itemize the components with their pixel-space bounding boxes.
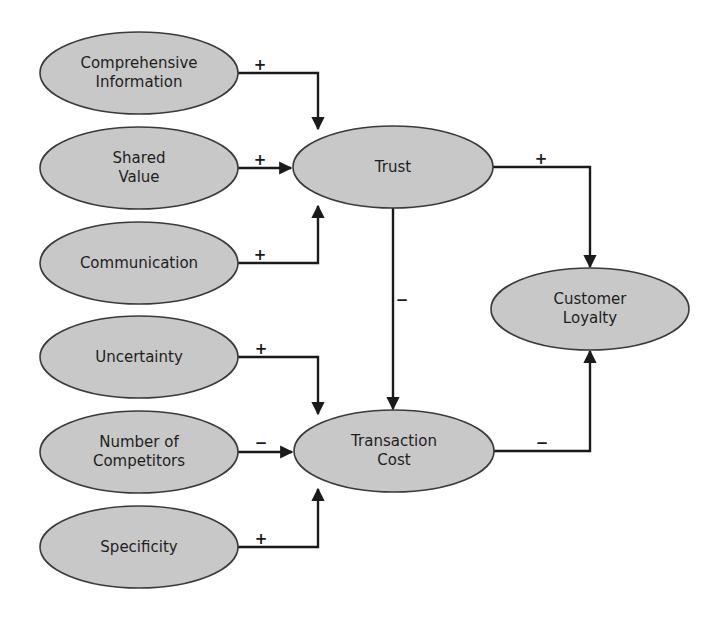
- nodes-layer: ComprehensiveInformationSharedValueCommu…: [40, 32, 689, 588]
- node-label: Number of: [99, 433, 179, 451]
- negative-sign-label: −: [255, 434, 268, 452]
- edge-shared-value-to-trust: +: [238, 151, 291, 169]
- node-label: Communication: [80, 254, 198, 272]
- negative-sign-label: −: [536, 434, 549, 452]
- causal-diagram: +++−++−+− ComprehensiveInformationShared…: [0, 0, 728, 619]
- node-label: Customer: [554, 290, 628, 308]
- edge-arrow: [238, 489, 318, 547]
- edge-trust-to-customer-loyalty: +: [493, 150, 590, 268]
- node-comprehensive-information: ComprehensiveInformation: [40, 32, 238, 114]
- edge-specificity-to-transaction-cost: +: [238, 489, 318, 548]
- node-label: Shared: [113, 149, 166, 167]
- edge-arrow: [238, 206, 318, 263]
- node-customer-loyalty: CustomerLoyalty: [491, 268, 689, 350]
- node-label: Trust: [374, 158, 411, 176]
- positive-sign-label: +: [254, 151, 267, 169]
- node-communication: Communication: [40, 222, 238, 304]
- edge-arrow: [238, 73, 318, 129]
- node-label: Comprehensive: [80, 54, 197, 72]
- edge-transaction-cost-to-customer-loyalty: −: [494, 351, 590, 452]
- node-shared-value: SharedValue: [40, 127, 238, 209]
- positive-sign-label: +: [255, 340, 268, 358]
- edge-trust-to-transaction-cost: −: [393, 208, 408, 409]
- node-label: Specificity: [100, 538, 177, 556]
- node-uncertainty: Uncertainty: [40, 316, 238, 398]
- node-label: Loyalty: [563, 309, 617, 327]
- node-label: Value: [118, 168, 159, 186]
- edge-arrow: [493, 167, 590, 267]
- node-label: Information: [96, 73, 183, 91]
- edge-uncertainty-to-transaction-cost: +: [238, 340, 318, 415]
- node-label: Competitors: [93, 452, 185, 470]
- negative-sign-label: −: [396, 291, 409, 309]
- node-label: Cost: [377, 451, 410, 469]
- positive-sign-label: +: [535, 150, 548, 168]
- node-transaction-cost: TransactionCost: [294, 410, 494, 492]
- edge-communication-to-trust: +: [238, 206, 318, 264]
- edge-number-of-competitors-to-transaction-cost: −: [238, 434, 292, 453]
- node-label: Uncertainty: [95, 348, 183, 366]
- edge-arrow: [238, 357, 318, 414]
- node-specificity: Specificity: [40, 506, 238, 588]
- edge-comprehensive-information-to-trust: +: [238, 56, 318, 130]
- positive-sign-label: +: [254, 56, 267, 74]
- node-trust: Trust: [293, 126, 493, 208]
- node-label: Transaction: [350, 432, 437, 450]
- positive-sign-label: +: [254, 246, 267, 264]
- node-number-of-competitors: Number ofCompetitors: [40, 411, 238, 493]
- positive-sign-label: +: [255, 530, 268, 548]
